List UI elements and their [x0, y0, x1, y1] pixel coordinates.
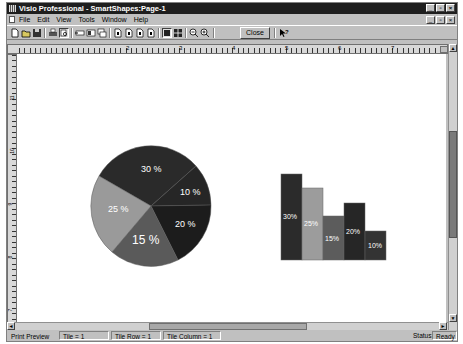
ruler-label: 7 — [7, 309, 13, 312]
close-button[interactable]: × — [446, 4, 455, 12]
status-tile-column: Tile Column = 1 — [163, 331, 221, 340]
menu-file[interactable]: File — [19, 14, 30, 25]
zoom-out-icon[interactable] — [189, 28, 199, 38]
page-setup-icon-2[interactable] — [86, 28, 96, 38]
menu-help[interactable]: Help — [134, 14, 148, 25]
previous-page-icon[interactable] — [124, 28, 134, 38]
menu-bar: File Edit View Tools Window Help _ ▫ × — [7, 14, 457, 25]
menu-window[interactable]: Window — [102, 14, 127, 25]
doc-restore-button[interactable]: ▫ — [436, 16, 445, 24]
menu-view[interactable]: View — [56, 14, 71, 25]
ruler-label: 8 — [7, 256, 13, 259]
bar-label: 30% — [283, 213, 297, 220]
drawing-page[interactable]: 30 % 10 % 20 % 15 % 25 % 30% 25% 15% 20%… — [17, 54, 446, 322]
toolbar-separator — [109, 28, 111, 38]
bar-label: 25% — [304, 220, 318, 227]
print-preview-icon[interactable] — [59, 28, 69, 38]
status-tile-row: Tile Row = 1 — [111, 331, 161, 340]
toolbar-separator — [158, 28, 160, 38]
horizontal-scrollbar[interactable]: ◄ ► — [7, 322, 448, 330]
open-folder-icon[interactable] — [21, 28, 31, 38]
scroll-up-button[interactable]: ▲ — [449, 44, 457, 52]
toolbar-separator — [274, 28, 276, 38]
print-icon[interactable] — [48, 28, 58, 38]
toolbar-separator — [44, 28, 46, 38]
zoom-in-icon[interactable] — [200, 28, 210, 38]
new-document-icon[interactable] — [10, 28, 20, 38]
pie-label: 10 % — [180, 187, 201, 197]
bar-label: 10% — [368, 242, 382, 249]
bar-label: 15% — [325, 235, 339, 242]
ruler-label: 5 — [285, 45, 288, 51]
last-page-icon[interactable] — [146, 28, 156, 38]
toolbar-separator — [213, 28, 215, 38]
window-controls: _ ▫ × — [426, 4, 455, 12]
ruler-label: 3 — [179, 45, 182, 51]
pie-label: 30 % — [141, 164, 162, 174]
window-title: Visio Professional - SmartShapes:Page-1 — [19, 3, 166, 14]
toolbar-separator — [185, 28, 187, 38]
ruler-label: 10 — [9, 148, 15, 154]
toolbar: Close ? — [7, 25, 457, 40]
single-tile-icon[interactable] — [162, 28, 172, 38]
ruler-label: 4 — [232, 45, 235, 51]
ruler-corner-button[interactable] — [440, 46, 448, 53]
scroll-down-button[interactable]: ▼ — [449, 314, 457, 322]
minimize-button[interactable]: _ — [426, 4, 435, 12]
context-help-icon[interactable]: ? — [279, 28, 289, 38]
doc-close-button[interactable]: × — [446, 16, 455, 24]
pie-label: 25 % — [108, 204, 129, 214]
status-label: Status: — [413, 330, 433, 341]
bar-chart[interactable]: 30% 25% 15% 20% 10% — [281, 174, 386, 260]
horizontal-scroll-thumb[interactable] — [149, 323, 307, 330]
bar-label: 20% — [346, 228, 360, 235]
toolbar-separator — [71, 28, 73, 38]
visio-app-icon[interactable] — [9, 5, 16, 12]
whole-page-icon[interactable] — [173, 28, 183, 38]
status-value: Ready — [432, 331, 457, 340]
svg-text:?: ? — [285, 29, 289, 35]
ruler-label: 2 — [126, 45, 129, 51]
status-bar: Print Preview Tile = 1 Tile Row = 1 Tile… — [7, 330, 457, 341]
charts-svg: 30 % 10 % 20 % 15 % 25 % 30% 25% 15% 20%… — [17, 54, 446, 322]
next-page-icon[interactable] — [135, 28, 145, 38]
pie-chart[interactable]: 30 % 10 % 20 % 15 % 25 % — [91, 146, 211, 267]
title-bar[interactable]: Visio Professional - SmartShapes:Page-1 … — [7, 3, 457, 14]
scroll-right-button[interactable]: ► — [439, 322, 447, 330]
scroll-left-button[interactable]: ◄ — [7, 322, 15, 330]
document-icon[interactable] — [9, 16, 15, 23]
first-page-icon[interactable] — [113, 28, 123, 38]
vertical-scroll-thumb[interactable] — [449, 131, 457, 238]
vertical-ruler[interactable]: 11 10 9 8 7 — [7, 54, 17, 324]
status-mode: Print Preview — [7, 331, 57, 340]
vertical-scrollbar[interactable]: ▲ ▼ — [448, 44, 457, 330]
menu-edit[interactable]: Edit — [37, 14, 49, 25]
status-tile: Tile = 1 — [59, 331, 109, 340]
ruler-label: 7 — [391, 45, 394, 51]
page-setup-icon-1[interactable] — [75, 28, 85, 38]
ruler-label: 6 — [338, 45, 341, 51]
maximize-button[interactable]: ▫ — [436, 4, 445, 12]
document-window-controls: _ ▫ × — [426, 16, 455, 24]
save-icon[interactable] — [32, 28, 42, 38]
ruler-label: 11 — [9, 95, 15, 100]
doc-minimize-button[interactable]: _ — [426, 16, 435, 24]
close-preview-button[interactable]: Close — [240, 27, 270, 39]
visio-window: Visio Professional - SmartShapes:Page-1 … — [6, 2, 458, 342]
pie-label: 20 % — [175, 219, 196, 229]
horizontal-ruler[interactable]: 2 3 4 5 6 7 — [7, 44, 448, 54]
ruler-label: 9 — [7, 203, 13, 206]
menu-tools[interactable]: Tools — [78, 14, 94, 25]
page-setup-icon-3[interactable] — [97, 28, 107, 38]
pie-label: 15 % — [132, 233, 160, 247]
